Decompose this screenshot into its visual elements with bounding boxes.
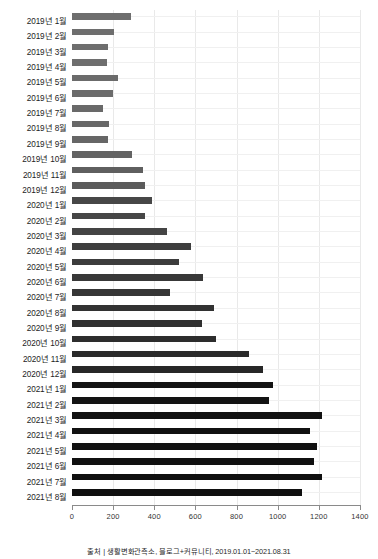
chart-row: 2020년 12월 [0, 365, 378, 380]
bar [72, 213, 145, 220]
bar [72, 44, 108, 51]
x-tick-label: 200 [93, 512, 133, 521]
category-label: 2020년 3월 [27, 229, 67, 241]
bar [72, 351, 249, 358]
chart-row: 2021년 5월 [0, 442, 378, 457]
category-label: 2020년 11월 [23, 352, 67, 364]
chart-row: 2021년 1월 [0, 380, 378, 395]
category-label: 2021년 7월 [27, 475, 67, 487]
x-tick-label: 0 [52, 512, 92, 521]
bar [72, 382, 273, 389]
row-track [72, 139, 360, 140]
category-label: 2021년 6월 [27, 459, 67, 471]
bar [72, 259, 179, 266]
chart-row: 2020년 7월 [0, 288, 378, 303]
category-label: 2019년 12월 [22, 183, 67, 195]
category-label: 2019년 4월 [27, 60, 67, 72]
category-label: 2019년 7월 [27, 106, 67, 118]
bar [72, 136, 108, 143]
chart-row: 2019년 1월 [0, 12, 378, 27]
bar [72, 428, 310, 435]
chart-row: 2021년 3월 [0, 411, 378, 426]
bar [72, 397, 269, 404]
bar [72, 90, 113, 97]
chart-row: 2019년 11월 [0, 166, 378, 181]
category-label: 2019년 8월 [27, 121, 67, 133]
bar [72, 489, 302, 496]
category-label: 2021년 3월 [27, 413, 67, 425]
bar [72, 13, 131, 20]
chart-row: 2021년 7월 [0, 473, 378, 488]
category-label: 2020년 8월 [27, 306, 67, 318]
chart-row: 2020년 5월 [0, 258, 378, 273]
bar [72, 289, 170, 296]
bar [72, 366, 263, 373]
row-track [72, 32, 360, 33]
chart-row: 2020년 6월 [0, 273, 378, 288]
category-label: 2019년 10월 [22, 152, 67, 164]
x-tick [154, 505, 155, 510]
axis-line [72, 505, 360, 506]
bar [72, 151, 132, 158]
bar [72, 197, 152, 204]
category-label: 2019년 3월 [27, 45, 67, 57]
category-label: 2020년 1월 [27, 198, 67, 210]
chart-row: 2019년 2월 [0, 27, 378, 42]
bar [72, 29, 114, 36]
bar [72, 458, 314, 465]
chart-row: 2019년 4월 [0, 58, 378, 73]
category-label: 2019년 6월 [27, 91, 67, 103]
chart-row: 2021년 8월 [0, 488, 378, 503]
bar-chart: 2019년 1월2019년 2월2019년 3월2019년 4월2019년 5월… [0, 0, 378, 559]
chart-row: 2019년 3월 [0, 43, 378, 58]
bar [72, 474, 322, 481]
category-label: 2020년 2월 [27, 214, 67, 226]
category-label: 2020년 9월 [27, 321, 67, 333]
bar [72, 59, 107, 66]
chart-row: 2021년 2월 [0, 396, 378, 411]
row-track [72, 124, 360, 125]
x-tick [237, 505, 238, 510]
category-label: 2021년 2월 [27, 398, 67, 410]
chart-row: 2019년 10월 [0, 150, 378, 165]
chart-row: 2019년 6월 [0, 89, 378, 104]
x-tick-label: 400 [134, 512, 174, 521]
chart-row: 2019년 7월 [0, 104, 378, 119]
chart-row: 2020년 2월 [0, 212, 378, 227]
category-label: 2020년 5월 [27, 260, 67, 272]
chart-row: 2020년 4월 [0, 242, 378, 257]
chart-row: 2021년 4월 [0, 426, 378, 441]
category-label: 2019년 2월 [27, 29, 67, 41]
bar [72, 243, 191, 250]
x-tick [195, 505, 196, 510]
chart-row: 2019년 12월 [0, 181, 378, 196]
row-track [72, 93, 360, 94]
category-label: 2021년 4월 [27, 428, 67, 440]
category-label: 2021년 1월 [27, 382, 67, 394]
bar [72, 167, 143, 174]
bar [72, 121, 109, 128]
x-tick [72, 505, 73, 510]
bar [72, 274, 203, 281]
row-track [72, 108, 360, 109]
bar [72, 443, 317, 450]
x-tick-label: 1200 [299, 512, 339, 521]
category-label: 2020년 7월 [27, 290, 67, 302]
chart-row: 2019년 5월 [0, 73, 378, 88]
category-label: 2020년 12월 [22, 367, 67, 379]
bar [72, 305, 214, 312]
plot-area: 2019년 1월2019년 2월2019년 3월2019년 4월2019년 5월… [0, 0, 378, 559]
bar [72, 336, 216, 343]
row-track [72, 47, 360, 48]
chart-row: 2020년 11월 [0, 350, 378, 365]
category-label: 2019년 11월 [23, 168, 67, 180]
x-tick [360, 505, 361, 510]
bar [72, 105, 103, 112]
chart-row: 2020년 8월 [0, 304, 378, 319]
category-label: 2020년 4월 [27, 244, 67, 256]
bar [72, 320, 202, 327]
x-tick-label: 600 [175, 512, 215, 521]
x-tick [113, 505, 114, 510]
chart-row: 2020년 10월 [0, 334, 378, 349]
category-label: 2019년 1월 [27, 14, 67, 26]
